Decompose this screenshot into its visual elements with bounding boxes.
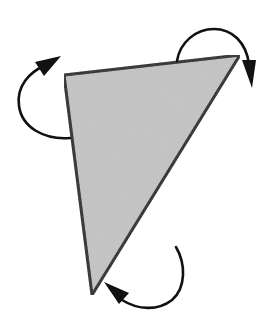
top-left-rotation-arrow: [19, 56, 70, 138]
triangle-shape: [64, 55, 240, 295]
top-left-arrow-head-icon: [35, 56, 61, 76]
rotation-diagram: [0, 0, 270, 326]
top-left-arrow-curve: [19, 66, 70, 138]
bottom-arrow-curve: [122, 247, 183, 308]
top-right-arrow-head-icon: [242, 60, 256, 88]
